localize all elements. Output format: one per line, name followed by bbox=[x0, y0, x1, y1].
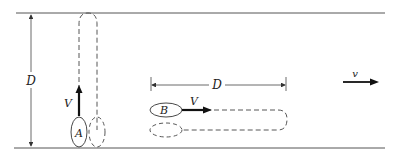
arrowhead-up-icon bbox=[76, 85, 83, 93]
horizontal-d-label: D bbox=[211, 78, 222, 92]
velocity-b-label: V bbox=[190, 95, 199, 108]
velocity-a-label: V bbox=[64, 97, 73, 110]
swimmer-a-path bbox=[79, 13, 97, 130]
vertical-width-dimension: D bbox=[24, 15, 38, 146]
swimmer-a-label: A bbox=[74, 127, 83, 140]
swimmer-b-path bbox=[182, 110, 287, 130]
river-flow-label: v bbox=[352, 68, 358, 79]
swimmer-b-ghost bbox=[150, 123, 182, 137]
vertical-d-label: D bbox=[25, 74, 36, 88]
swimmer-b-label: B bbox=[159, 104, 168, 117]
horizontal-width-dimension: D bbox=[151, 77, 286, 92]
river-crossing-diagram: D A V D B V v bbox=[0, 0, 395, 162]
arrowhead-right-icon bbox=[370, 79, 379, 86]
arrowhead-right-icon bbox=[203, 107, 212, 114]
